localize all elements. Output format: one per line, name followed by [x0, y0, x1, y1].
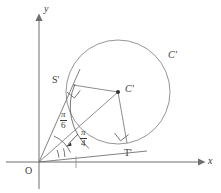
geometry-figure: y x O S' T' C' C' π 6 π 4	[0, 0, 221, 193]
angle-denominator-pi-over-4: 4	[80, 139, 87, 148]
circle-label-c-prime: C'	[168, 50, 177, 60]
angle-label-pi-over-4: π 4	[80, 128, 87, 149]
right-angle-marker-s-prime	[67, 90, 80, 98]
center-point-dot	[116, 90, 120, 94]
angle-denominator-pi-over-6: 6	[60, 121, 67, 130]
geometry-canvas	[0, 0, 221, 193]
pointer-line-pi-over-4	[69, 134, 79, 144]
angle-numerator-pi-over-6: π	[60, 110, 67, 119]
x-axis-arrowhead	[198, 158, 206, 165]
x-axis-label: x	[208, 156, 212, 166]
segment-o-to-center	[39, 92, 118, 162]
y-axis-label: y	[44, 4, 48, 14]
origin-label: O	[25, 166, 32, 176]
angle-arc-inner	[57, 150, 59, 158]
pointer-arrowhead-pi-over-4	[66, 142, 72, 146]
angle-arc-pi-over-6	[54, 136, 71, 153]
point-label-s-prime: S'	[52, 75, 59, 85]
angle-arc-pi-over-4	[64, 149, 65, 158]
y-axis-arrowhead	[35, 14, 42, 22]
center-label-c-prime: C'	[125, 84, 134, 94]
angle-label-pi-over-6: π 6	[60, 110, 67, 131]
point-label-t-prime: T'	[124, 148, 132, 158]
angle-numerator-pi-over-4: π	[80, 128, 87, 137]
radius-to-t-prime	[118, 92, 127, 143]
